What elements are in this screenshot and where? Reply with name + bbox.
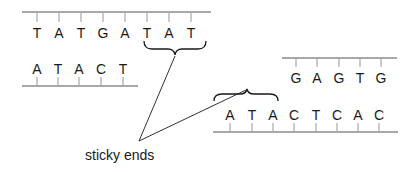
left-fragment-top-strand: T A T G A T A T bbox=[22, 12, 211, 41]
base-letter: G bbox=[376, 70, 387, 86]
left-sticky-end-brace bbox=[144, 41, 206, 55]
base-letter: C bbox=[374, 107, 384, 123]
base-letter: T bbox=[143, 25, 152, 41]
base-letter: T bbox=[187, 25, 196, 41]
base-letter: A bbox=[120, 25, 130, 41]
base-letter: A bbox=[54, 25, 64, 41]
base-letter: C bbox=[289, 107, 299, 123]
base-letter: A bbox=[268, 107, 278, 123]
base-letter: T bbox=[33, 25, 42, 41]
base-letter: G bbox=[291, 70, 302, 86]
base-letter: T bbox=[248, 107, 257, 123]
base-letter: T bbox=[54, 61, 63, 77]
base-letter: C bbox=[96, 61, 106, 77]
right-sticky-end-brace bbox=[214, 89, 278, 101]
base-letter: G bbox=[98, 25, 109, 41]
base-letter: T bbox=[119, 61, 128, 77]
pointer-line-left bbox=[139, 56, 175, 141]
base-letter: C bbox=[332, 107, 342, 123]
dna-sticky-ends-diagram: T A T G A T A T A T A C T G A G T G bbox=[0, 0, 419, 172]
sticky-ends-label: sticky ends bbox=[85, 147, 154, 163]
base-letter: T bbox=[312, 107, 321, 123]
base-letter: G bbox=[334, 70, 345, 86]
base-letter: A bbox=[225, 107, 235, 123]
base-letter: A bbox=[74, 61, 84, 77]
base-letter: A bbox=[164, 25, 174, 41]
base-letter: A bbox=[32, 61, 42, 77]
left-fragment-bottom-strand: A T A C T bbox=[22, 61, 138, 86]
base-letter: A bbox=[312, 70, 322, 86]
base-letter: T bbox=[356, 70, 365, 86]
base-letter: T bbox=[77, 25, 86, 41]
right-fragment-bottom-strand: A T A C T C A C bbox=[213, 107, 398, 132]
right-fragment-top-strand: G A G T G bbox=[282, 58, 397, 86]
base-letter: A bbox=[353, 107, 363, 123]
